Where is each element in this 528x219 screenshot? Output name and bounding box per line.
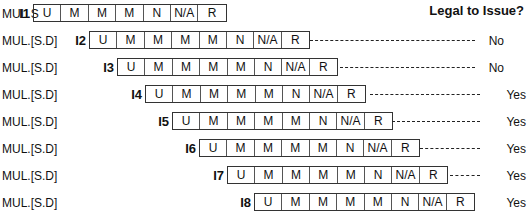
stage-cell: U xyxy=(118,59,145,75)
stage-cell: N xyxy=(337,140,364,156)
pipeline-stages: UMMMMNN/AR xyxy=(199,139,420,157)
stage-cell: M xyxy=(200,113,227,129)
instruction-row: MUL.SI1UMMMNN/AR xyxy=(0,4,528,24)
opcode-label: MUL.[S.D] xyxy=(2,169,57,183)
instruction-id: I3 xyxy=(92,60,114,75)
instruction-row: MUL.[S.D]I7UMMMMNN/ARYes xyxy=(0,166,528,186)
instruction-id: I4 xyxy=(120,87,142,102)
stage-cell: M xyxy=(283,167,310,183)
stage-cell: M xyxy=(228,113,255,129)
pipeline-stages: UMMMMNN/AR xyxy=(117,58,338,76)
instruction-row: MUL.[S.D]I8UMMMMNN/ARYes xyxy=(0,193,528,213)
legal-answer: Yes xyxy=(506,115,526,129)
stage-cell: M xyxy=(228,86,255,102)
stage-cell: M xyxy=(145,32,172,48)
stage-cell: R xyxy=(338,86,365,102)
stage-cell: M xyxy=(228,59,255,75)
stage-cell: R xyxy=(310,59,337,75)
stage-cell: M xyxy=(310,194,337,210)
legal-answer: No xyxy=(489,34,504,48)
opcode-label: MUL.[S.D] xyxy=(2,196,57,210)
instruction-id: I1 xyxy=(8,6,30,21)
stage-cell: M xyxy=(173,59,200,75)
stage-cell: N/A xyxy=(282,59,309,75)
opcode-label: MUL.[S.D] xyxy=(2,34,57,48)
stage-cell: R xyxy=(420,167,447,183)
stage-cell: M xyxy=(201,86,228,102)
pipeline-stages: UMMMMNN/AR xyxy=(172,112,393,130)
stage-cell: N/A xyxy=(337,113,364,129)
stage-cell: R xyxy=(365,113,392,129)
dashed-leader xyxy=(310,40,475,41)
opcode-label: MUL.[S.D] xyxy=(2,115,57,129)
stage-cell: R xyxy=(282,32,309,48)
stage-cell: N/A xyxy=(419,194,446,210)
stage-cell: M xyxy=(282,194,309,210)
stage-cell: U xyxy=(34,5,61,21)
stage-cell: M xyxy=(117,32,144,48)
instruction-id: I7 xyxy=(202,168,224,183)
stage-cell: M xyxy=(145,59,172,75)
stage-cell: N/A xyxy=(171,5,198,21)
instruction-row: MUL.[S.D]I6UMMMMNN/ARYes xyxy=(0,139,528,159)
stage-cell: M xyxy=(255,167,282,183)
stage-cell: M xyxy=(200,32,227,48)
stage-cell: N xyxy=(227,32,254,48)
stage-cell: N xyxy=(283,86,310,102)
stage-cell: M xyxy=(310,140,337,156)
stage-cell: N/A xyxy=(392,167,419,183)
instruction-id: I5 xyxy=(147,114,169,129)
opcode-label: MUL.[S.D] xyxy=(2,142,57,156)
stage-cell: N/A xyxy=(310,86,337,102)
stage-cell: U xyxy=(173,113,200,129)
stage-cell: U xyxy=(228,167,255,183)
instruction-id: I2 xyxy=(64,33,86,48)
stage-cell: M xyxy=(310,167,337,183)
stage-cell: U xyxy=(90,32,117,48)
legal-answer: Yes xyxy=(506,142,526,156)
stage-cell: M xyxy=(200,59,227,75)
stage-cell: M xyxy=(256,86,283,102)
pipeline-stages: UMMMMNN/AR xyxy=(254,193,475,211)
stage-cell: M xyxy=(337,194,364,210)
stage-cell: M xyxy=(61,5,88,21)
dashed-leader xyxy=(370,94,480,95)
legal-answer: Yes xyxy=(506,169,526,183)
opcode-label: MUL.[S.D] xyxy=(2,61,57,75)
dashed-leader xyxy=(340,67,475,68)
stage-cell: M xyxy=(172,32,199,48)
stage-cell: M xyxy=(283,113,310,129)
stage-cell: U xyxy=(146,86,173,102)
stage-cell: N/A xyxy=(364,140,391,156)
opcode-label: MUL.[S.D] xyxy=(2,88,57,102)
pipeline-stages: UMMMNN/AR xyxy=(33,4,227,22)
stage-cell: U xyxy=(255,194,282,210)
stage-cell: R xyxy=(447,194,474,210)
instruction-row: MUL.[S.D]I5UMMMMNN/ARYes xyxy=(0,112,528,132)
instruction-id: I8 xyxy=(229,195,251,210)
stage-cell: M xyxy=(227,140,254,156)
instruction-row: MUL.[S.D]I3UMMMMNN/ARNo xyxy=(0,58,528,78)
legal-answer: Yes xyxy=(506,88,526,102)
dashed-leader xyxy=(392,121,480,122)
pipeline-stages: UMMMMNN/AR xyxy=(227,166,448,184)
stage-cell: M xyxy=(282,140,309,156)
stage-cell: N/A xyxy=(254,32,281,48)
stage-cell: M xyxy=(173,86,200,102)
legal-answer: No xyxy=(489,61,504,75)
stage-cell: U xyxy=(200,140,227,156)
legal-answer: Yes xyxy=(506,196,526,210)
stage-cell: N xyxy=(392,194,419,210)
stage-cell: N xyxy=(310,113,337,129)
stage-cell: M xyxy=(116,5,143,21)
instruction-row: MUL.[S.D]I2UMMMMNN/ARNo xyxy=(0,31,528,51)
dashed-leader xyxy=(450,175,480,176)
stage-cell: M xyxy=(89,5,116,21)
stage-cell: M xyxy=(365,194,392,210)
stage-cell: N xyxy=(144,5,171,21)
pipeline-stages: UMMMMNN/AR xyxy=(145,85,366,103)
instruction-id: I6 xyxy=(174,141,196,156)
stage-cell: M xyxy=(255,113,282,129)
stage-cell: R xyxy=(198,5,225,21)
instruction-row: MUL.[S.D]I4UMMMMNN/ARYes xyxy=(0,85,528,105)
